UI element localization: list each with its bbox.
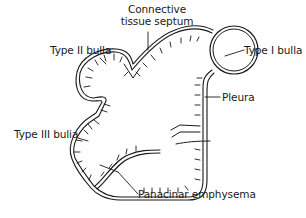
panacinar-leader-2 <box>118 172 138 194</box>
label-pleura: Pleura <box>222 91 255 103</box>
type-i-leader <box>225 50 244 56</box>
label-connective-tissue-septum-line2: tissue septum <box>109 15 205 27</box>
label-type-ii-bulla: Type II bulla <box>50 44 111 56</box>
bullae-diagram <box>0 0 306 218</box>
label-connective-tissue-septum-line1: Connective <box>117 3 197 15</box>
label-type-i-bulla: Type I bulla <box>244 44 302 56</box>
label-panacinar-emphysema: Panacinar emphysema <box>138 188 256 200</box>
branch-lines <box>171 125 210 144</box>
panacinar-boundary <box>95 150 160 189</box>
label-type-iii-bulla: Type III bulia <box>14 128 78 140</box>
leader-lines <box>78 32 244 194</box>
connective-tissue-septum-shape <box>124 64 140 78</box>
